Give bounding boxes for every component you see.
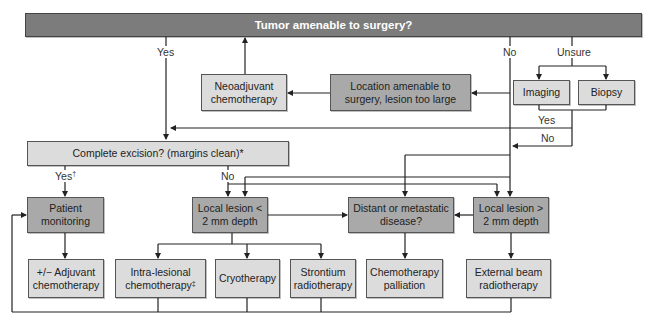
node-imaging-label: Imaging	[523, 86, 560, 99]
node-location-amenable: Location amenable to surgery, lesion too…	[330, 74, 471, 111]
node-chemo-palliation-label: Chemotherapy palliation	[368, 266, 442, 292]
node-chemo-palliation: Chemotherapy palliation	[366, 259, 443, 298]
label-no-diagnostic: No	[540, 132, 555, 144]
node-biopsy: Biopsy	[578, 80, 635, 105]
node-local-lesion-gt2: Local lesion > 2 mm depth	[473, 197, 549, 233]
node-local-gt2-label: Local lesion > 2 mm depth	[476, 202, 546, 228]
node-local-lesion-lt2: Local lesion < 2 mm depth	[192, 197, 268, 233]
node-adjuvant-chemo: +/− Adjuvant chemotherapy	[28, 259, 104, 298]
node-strontium-label: Strontium radiotherapy	[291, 266, 355, 292]
node-patient-monitoring-label: Patient monitoring	[36, 202, 96, 228]
node-local-lt2-label: Local lesion < 2 mm depth	[195, 202, 265, 228]
node-complete-excision: Complete excision? (margins clean)*	[27, 141, 289, 166]
node-distant-metastatic: Distant or metastatic disease?	[348, 197, 454, 233]
label-no-top: No	[502, 46, 517, 58]
node-location-label: Location amenable to surgery, lesion too…	[331, 80, 470, 106]
node-neoadjuvant-label: Neoadjuvant chemotherapy	[202, 80, 286, 106]
node-neoadjuvant: Neoadjuvant chemotherapy	[201, 74, 287, 111]
node-external-beam-label: External beam radiotherapy	[471, 266, 547, 292]
node-intralesional-label: Intra-lesional chemotherapy‡	[118, 266, 204, 292]
node-distant-label: Distant or metastatic disease?	[351, 202, 451, 228]
tumor-amenable-header: Tumor amenable to surgery?	[25, 13, 642, 37]
node-cryotherapy: Cryotherapy	[215, 259, 280, 298]
node-intralesional-chemo: Intra-lesional chemotherapy‡	[115, 259, 206, 298]
label-yes-diagnostic: Yes	[537, 114, 556, 126]
node-adjuvant-label: +/− Adjuvant chemotherapy	[30, 266, 102, 292]
node-complete-excision-label: Complete excision? (margins clean)*	[73, 147, 244, 160]
node-patient-monitoring: Patient monitoring	[27, 197, 104, 233]
label-no-excision: No	[220, 170, 235, 182]
label-unsure: Unsure	[556, 46, 592, 58]
footnote-mark-dagger: †	[72, 170, 76, 177]
node-imaging: Imaging	[513, 80, 570, 105]
node-external-beam: External beam radiotherapy	[466, 259, 551, 298]
header-title: Tumor amenable to surgery?	[255, 19, 413, 32]
node-cryotherapy-label: Cryotherapy	[219, 272, 276, 285]
label-yes-excision: Yes†	[54, 170, 77, 182]
node-biopsy-label: Biopsy	[591, 86, 623, 99]
node-strontium: Strontium radiotherapy	[290, 259, 356, 298]
footnote-mark-double-dagger: ‡	[192, 280, 196, 287]
label-yes-top: Yes	[156, 46, 175, 58]
